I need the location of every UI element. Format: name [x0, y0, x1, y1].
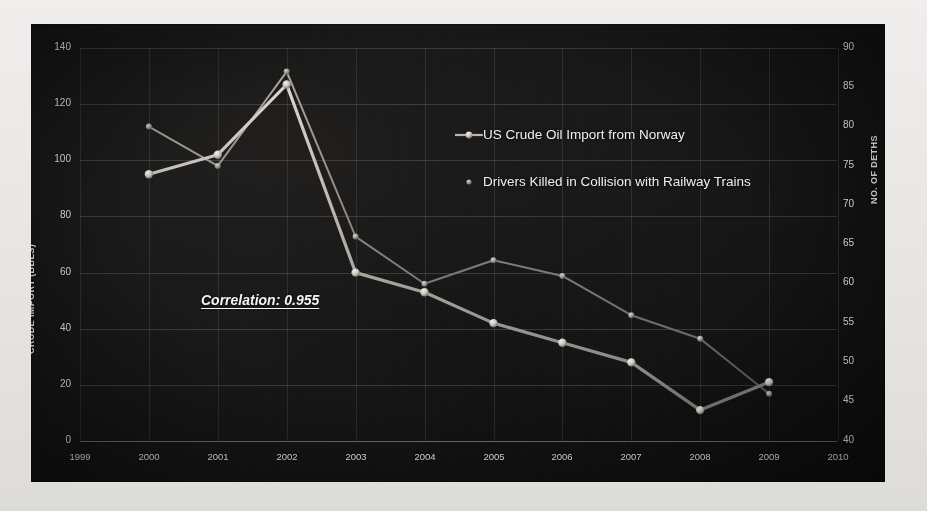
right-tick-50: 50: [843, 355, 869, 366]
left-tick-140: 140: [45, 41, 71, 52]
x-tick-2004: 2004: [404, 451, 446, 462]
x-tick-2006: 2006: [541, 451, 583, 462]
right-tick-40: 40: [843, 434, 869, 445]
dot-marker-icon: [455, 176, 483, 188]
left-tick-40: 40: [45, 322, 71, 333]
right-tick-55: 55: [843, 316, 869, 327]
left-tick-60: 60: [45, 266, 71, 277]
x-tick-2003: 2003: [335, 451, 377, 462]
right-tick-70: 70: [843, 198, 869, 209]
right-axis-title: NO. OF DETHS: [869, 135, 879, 204]
chart-plate: MILLIONS CRUDE IMPORT (BBLS) 140 120 100…: [31, 24, 885, 482]
right-tick-65: 65: [843, 237, 869, 248]
legend-item-crude-import[interactable]: US Crude Oil Import from Norway: [455, 127, 685, 142]
x-tick-2002: 2002: [266, 451, 308, 462]
left-tick-120: 120: [45, 97, 71, 108]
correlation-annotation: Correlation: 0.955: [201, 292, 319, 308]
right-tick-45: 45: [843, 394, 869, 405]
left-tick-100: 100: [45, 153, 71, 164]
page-background: MILLIONS CRUDE IMPORT (BBLS) 140 120 100…: [0, 0, 927, 511]
x-tick-2009: 2009: [748, 451, 790, 462]
x-tick-2010: 2010: [817, 451, 859, 462]
x-tick-2005: 2005: [473, 451, 515, 462]
x-tick-1999: 1999: [59, 451, 101, 462]
chart-plot-area: [31, 24, 885, 482]
left-tick-80: 80: [45, 209, 71, 220]
x-tick-2007: 2007: [610, 451, 652, 462]
legend-label-drivers-killed: Drivers Killed in Collision with Railway…: [483, 174, 751, 189]
left-tick-20: 20: [45, 378, 71, 389]
right-tick-75: 75: [843, 159, 869, 170]
left-axis-title: CRUDE IMPORT (BBLS): [31, 244, 36, 354]
x-tick-2008: 2008: [679, 451, 721, 462]
right-tick-90: 90: [843, 41, 869, 52]
legend-item-drivers-killed[interactable]: Drivers Killed in Collision with Railway…: [455, 174, 751, 189]
line-marker-icon: [455, 129, 483, 141]
left-axis-unit-label: MILLIONS: [31, 34, 32, 80]
right-tick-85: 85: [843, 80, 869, 91]
series-drivers-killed: [146, 69, 772, 397]
x-tick-2000: 2000: [128, 451, 170, 462]
legend-label-crude-import: US Crude Oil Import from Norway: [483, 127, 685, 142]
left-tick-0: 0: [45, 434, 71, 445]
right-tick-60: 60: [843, 276, 869, 287]
right-tick-80: 80: [843, 119, 869, 130]
x-tick-2001: 2001: [197, 451, 239, 462]
